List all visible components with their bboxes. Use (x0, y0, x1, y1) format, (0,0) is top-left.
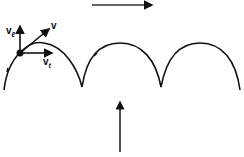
direction-tick-1 (7, 68, 8, 72)
vl-label: vℓ (6, 25, 15, 38)
cycloid-curve (4, 43, 240, 90)
cycloid-diagram (0, 0, 244, 157)
v-label: v (51, 20, 57, 31)
vt-label: vt (43, 56, 51, 69)
v-arrow (20, 29, 49, 53)
